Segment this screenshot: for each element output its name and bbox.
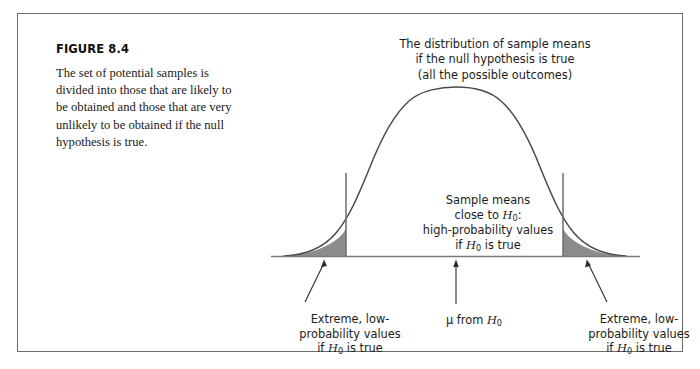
- heading-line-3: (all the possible outcomes): [363, 68, 627, 83]
- right-tail-label: Extreme, low- probability values if H0 i…: [563, 312, 700, 357]
- mu-label-line: μ from H0: [422, 313, 526, 329]
- center-note-line-2-subscript: 0: [512, 213, 517, 223]
- heading-line-2: if the null hypothesis is true: [363, 52, 627, 67]
- mu-from-h0-label: μ from H0: [422, 313, 526, 329]
- center-note-line-3: high-probability values: [398, 223, 578, 238]
- heading-line-1: The distribution of sample means: [363, 37, 627, 52]
- right-tail-line-3-subscript: 0: [627, 346, 632, 356]
- left-tail-line-1: Extreme, low-: [270, 312, 430, 327]
- left-tail-line-2: probability values: [270, 327, 430, 342]
- distribution-plot: The distribution of sample means if the …: [18, 14, 684, 353]
- right-tail-pointer-arrow: [585, 260, 607, 303]
- left-tail-pointer-arrow: [305, 260, 327, 303]
- mu-label-text: from: [453, 313, 487, 327]
- center-note-line-4-subscript: 0: [476, 243, 481, 253]
- right-tail-line-3-suffix: is true: [632, 341, 672, 355]
- left-tail-line-3-suffix: is true: [343, 341, 383, 355]
- center-note-line-4-prefix: if: [455, 238, 466, 252]
- center-note-line-2-suffix: :: [518, 208, 522, 222]
- right-tail-line-1: Extreme, low-: [563, 312, 700, 327]
- left-tail-line-3-prefix: if: [317, 341, 328, 355]
- center-note-line-4-symbol: H: [466, 238, 476, 252]
- right-tail-line-3-symbol: H: [617, 341, 627, 355]
- right-tail-line-3-prefix: if: [606, 341, 617, 355]
- right-tail-line-3: if H0 is true: [563, 341, 700, 357]
- left-tail-line-3: if H0 is true: [270, 341, 430, 357]
- left-tail-line-3-symbol: H: [328, 341, 338, 355]
- center-note-line-4: if H0 is true: [398, 238, 578, 254]
- mu-label-subscript: 0: [497, 318, 502, 328]
- center-note-line-4-suffix: is true: [481, 238, 521, 252]
- center-note-line-2-prefix: close to: [454, 208, 502, 222]
- distribution-heading: The distribution of sample means if the …: [363, 37, 627, 83]
- center-note-line-2: close to H0:: [398, 208, 578, 224]
- mu-label-hypothesis-symbol: H: [487, 313, 497, 327]
- right-tail-line-2: probability values: [563, 327, 700, 342]
- left-tail-line-3-subscript: 0: [338, 346, 343, 356]
- center-region-note: Sample means close to H0: high-probabili…: [398, 193, 578, 253]
- figure-frame: FIGURE 8.4 The set of potential samples …: [17, 13, 683, 352]
- center-note-line-2-symbol: H: [503, 208, 513, 222]
- center-note-line-1: Sample means: [398, 193, 578, 208]
- mu-pointer-arrow: [453, 260, 459, 305]
- left-tail-label: Extreme, low- probability values if H0 i…: [270, 312, 430, 357]
